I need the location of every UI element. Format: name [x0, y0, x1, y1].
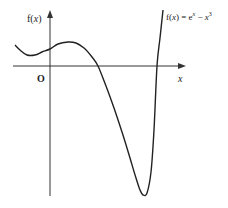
y-axis-label: f(x)	[27, 13, 41, 25]
x-axis-arrow-icon	[178, 63, 186, 69]
function-curve	[15, 10, 163, 196]
x-axis-label: x	[177, 73, 183, 84]
function-plot: f(x) O x f(x) = ex − x3	[0, 0, 228, 208]
y-axis-arrow-icon	[47, 10, 53, 18]
origin-label: O	[37, 73, 45, 84]
function-label: f(x) = ex − x3	[166, 11, 212, 22]
